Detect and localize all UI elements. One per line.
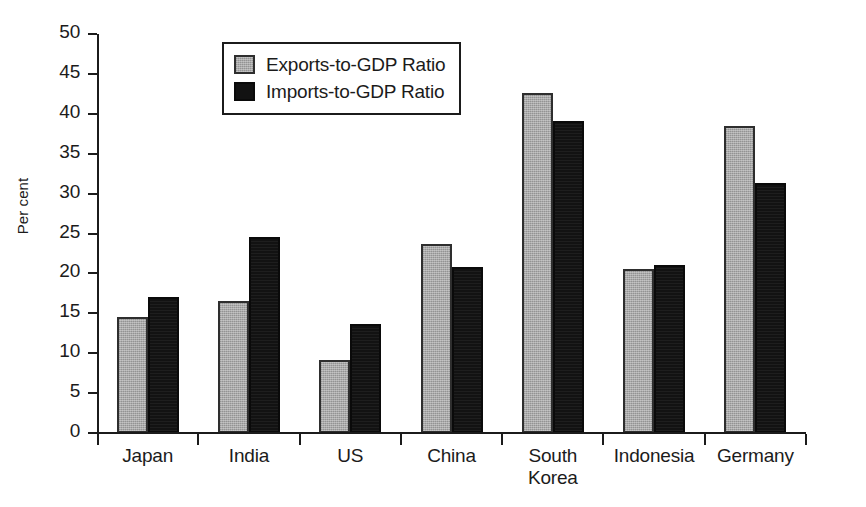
x-tick — [400, 434, 402, 445]
gray-swatch-icon — [234, 55, 255, 74]
x-category-label: US — [300, 445, 401, 467]
legend-item-imports: Imports-to-GDP Ratio — [234, 78, 445, 105]
x-category-label: Japan — [97, 445, 198, 467]
bar-chart: Per cent 05101520253035404550 JapanIndia… — [0, 0, 866, 507]
bar-india-exports — [218, 301, 249, 433]
x-category-label: China — [401, 445, 502, 467]
black-swatch-icon — [234, 82, 255, 101]
legend-item-exports: Exports-to-GDP Ratio — [234, 51, 445, 78]
bar-india-imports — [249, 237, 280, 433]
x-tick — [501, 434, 503, 445]
bar-south-korea-imports — [553, 121, 584, 433]
bar-indonesia-imports — [654, 265, 685, 433]
bar-china-exports — [421, 244, 452, 433]
x-category-label: India — [198, 445, 299, 467]
bar-indonesia-exports — [623, 269, 654, 433]
x-category-label: Germany — [705, 445, 806, 467]
legend-label-imports: Imports-to-GDP Ratio — [266, 81, 444, 103]
legend-label-exports: Exports-to-GDP Ratio — [266, 54, 445, 76]
bar-japan-imports — [148, 297, 179, 433]
x-category-label: Indonesia — [603, 445, 704, 467]
bar-china-imports — [452, 267, 483, 433]
x-tick — [602, 434, 604, 445]
bar-germany-imports — [755, 183, 786, 433]
bar-germany-exports — [724, 126, 755, 433]
bar-south-korea-exports — [522, 93, 553, 433]
x-category-label: South Korea — [502, 445, 603, 489]
x-tick — [97, 434, 99, 445]
x-axis-line — [97, 432, 806, 434]
chart-legend: Exports-to-GDP Ratio Imports-to-GDP Rati… — [222, 42, 461, 115]
bar-us-imports — [350, 324, 381, 433]
x-tick — [197, 434, 199, 445]
x-tick — [704, 434, 706, 445]
x-tick — [805, 434, 807, 445]
x-tick — [299, 434, 301, 445]
bar-japan-exports — [117, 317, 148, 433]
bar-us-exports — [319, 360, 350, 433]
